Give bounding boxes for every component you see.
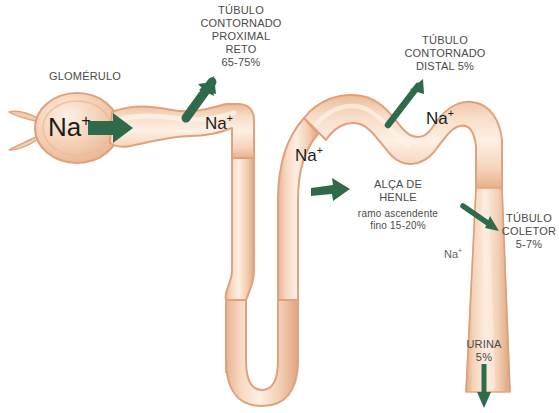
- distal-reabsorption-arrow: [388, 79, 424, 125]
- nephron-diagram: GLOMÉRULO TÚBULO CONTORNADO PROXIMAL RET…: [0, 0, 559, 413]
- na-text: Na: [205, 114, 227, 133]
- henle-reabsorption-arrow: [311, 178, 350, 201]
- collecting-tubule-label: TÚBULO COLETOR 5-7%: [498, 212, 559, 251]
- henle-loop-shape: [226, 300, 298, 406]
- descending-na-label: Na+: [295, 145, 323, 164]
- na-text: Na: [48, 112, 81, 142]
- collecting-na-label: Na+: [444, 248, 462, 260]
- distal-tubule-label: TÚBULO CONTORNADO DISTAL 5%: [388, 34, 502, 73]
- proximal-tubule-label: TÚBULO CONTORNADO PROXIMAL RETO 65-75%: [180, 4, 302, 69]
- na-text: Na: [295, 146, 317, 165]
- glomerulus-na-label: Na+: [48, 112, 91, 140]
- urine-label: URINA 5%: [455, 338, 513, 364]
- na-text: Na: [426, 109, 448, 128]
- henle-loop-label: ALÇA DE HENLE: [352, 178, 444, 204]
- na-superscript: +: [227, 112, 233, 124]
- henle-loop-detail-label: ramo ascendente fino 15-20%: [344, 208, 452, 232]
- na-superscript: +: [317, 144, 323, 156]
- na-superscript: +: [458, 247, 462, 254]
- distal-na-label: Na+: [426, 108, 454, 127]
- na-superscript: +: [448, 107, 454, 119]
- glomerulus-label: GLOMÉRULO: [35, 70, 135, 83]
- proximal-na-label: Na+: [205, 113, 233, 132]
- na-text: Na: [444, 248, 458, 260]
- na-superscript: +: [81, 111, 90, 129]
